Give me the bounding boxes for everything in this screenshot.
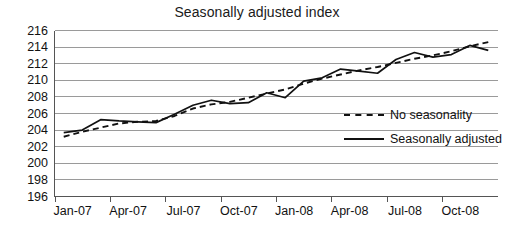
y-tick-label: 212 [4, 57, 48, 71]
x-tick-marks [56, 197, 443, 202]
x-tick-label: Jul-08 [388, 204, 422, 218]
y-tick-label: 216 [4, 24, 48, 38]
legend-label: Seasonally adjusted [390, 132, 502, 146]
y-tick-label: 206 [4, 107, 48, 121]
x-tick-label: Jul-07 [166, 204, 200, 218]
y-tick-label: 196 [4, 190, 48, 204]
x-tick-label: Apr-07 [109, 204, 147, 218]
legend-item-no-seasonality: No seasonality [344, 108, 504, 122]
x-tick-label: Apr-08 [331, 204, 369, 218]
y-tick-label: 204 [4, 123, 48, 137]
chart-legend: No seasonality Seasonally adjusted [344, 108, 504, 156]
y-tick-label: 200 [4, 156, 48, 170]
legend-key-dashed-icon [344, 108, 384, 122]
y-tick-label: 214 [4, 40, 48, 54]
legend-key-solid-icon [344, 132, 384, 146]
y-tick-label: 208 [4, 90, 48, 104]
legend-label: No seasonality [390, 108, 472, 122]
legend-item-seasonally-adjusted: Seasonally adjusted [344, 132, 504, 146]
y-tick-label: 210 [4, 73, 48, 87]
y-tick-label: 198 [4, 173, 48, 187]
x-tick-label: Oct-08 [442, 204, 480, 218]
x-tick-label: Jan-08 [275, 204, 313, 218]
x-tick-label: Oct-07 [220, 204, 258, 218]
y-tick-label: 202 [4, 140, 48, 154]
x-tick-label: Jan-07 [54, 204, 92, 218]
chart-figure: Seasonally adjusted index 21621421221020… [0, 0, 514, 241]
